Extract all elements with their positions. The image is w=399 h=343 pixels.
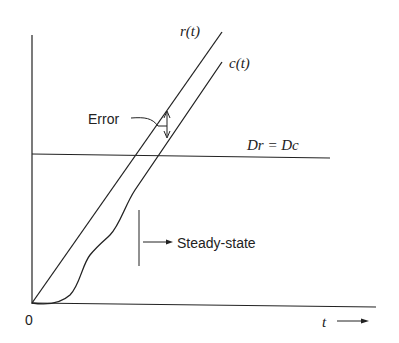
t-axis-label: t: [322, 314, 327, 330]
r-t-label: r(t): [180, 23, 200, 40]
steady-state-arrowhead: [166, 240, 173, 245]
c-t-label: c(t): [229, 55, 250, 72]
r-t-line: [32, 32, 222, 303]
c-t-curve: [32, 62, 222, 304]
x-axis: [32, 303, 376, 307]
error-label: Error: [88, 111, 119, 127]
origin-label: 0: [25, 312, 33, 328]
diagram-canvas: r(t) c(t) Error Dr = Dc Steady-state 0 t: [0, 0, 399, 343]
steady-state-label: Steady-state: [177, 235, 256, 251]
dr-dc-label: Dr = Dc: [246, 137, 299, 153]
t-arrowhead: [361, 319, 369, 324]
dr-dc-line: [32, 154, 330, 158]
